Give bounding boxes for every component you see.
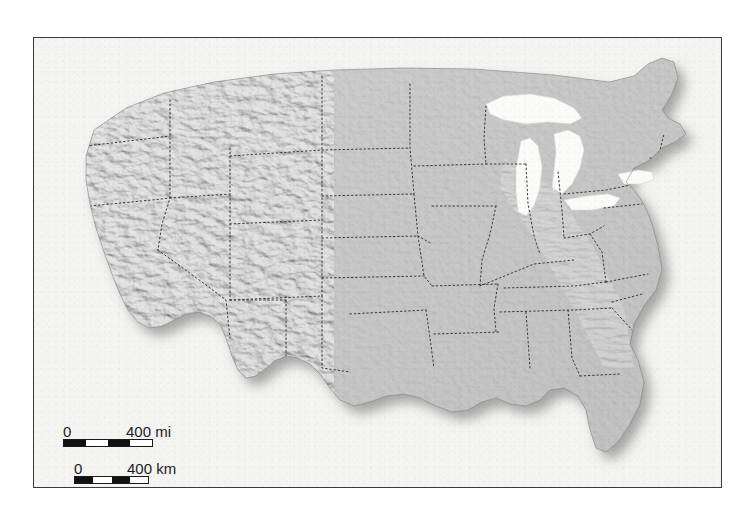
scale-miles-min-label: 0	[63, 424, 71, 439]
map-page: 0 400 mi 0 400 km	[0, 0, 755, 520]
us-relief-map	[34, 38, 721, 487]
scale-miles-max-label: 400 mi	[126, 424, 171, 439]
scale-km-bar	[74, 476, 149, 484]
scale-km-max-label: 400 km	[127, 461, 176, 476]
scale-km-min-label: 0	[74, 461, 82, 476]
map-plate: 0 400 mi 0 400 km	[33, 37, 722, 488]
scale-miles-bar	[63, 439, 153, 447]
relief-shading	[34, 38, 721, 487]
